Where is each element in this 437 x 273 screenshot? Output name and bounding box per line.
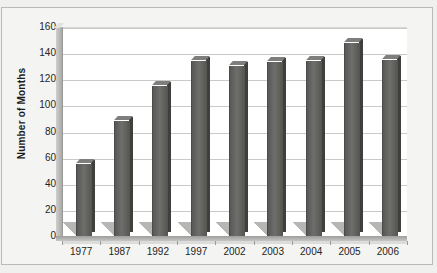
bar-front-face [191,61,207,236]
x-axis-tick-label: 2004 [291,246,331,257]
bar[interactable] [306,27,321,236]
x-axis-tick-label: 2005 [330,246,370,257]
x-axis-tick-mark [292,241,293,245]
y-axis-tick-label: 100 [20,99,56,110]
bar-front-face [344,43,360,236]
y-axis-tick-label: 20 [20,204,56,215]
x-axis-tick-label: 1987 [100,246,140,257]
bar-floor-shadow [293,222,306,236]
x-axis-tick-label: 1992 [138,246,178,257]
x-axis-tick-mark [177,241,178,245]
bar-front-face [152,86,168,236]
bar-front-face [76,164,92,236]
x-axis-tick-mark [100,241,101,245]
bar[interactable] [114,27,129,236]
bar-chart-figure: Number of Months 020406080100120140160 1… [0,0,437,273]
x-axis-tick-mark [215,241,216,245]
bar-floor-shadow [216,222,229,236]
bar-floor-shadow [178,222,191,236]
y-axis-tick-label: 60 [20,152,56,163]
bar[interactable] [191,27,206,236]
bar[interactable] [76,27,91,236]
x-axis-tick-mark [254,241,255,245]
bar-front-face [267,62,283,236]
x-axis-tick-mark [330,241,331,245]
bar-floor-shadow [254,222,267,236]
y-axis-tick-label: 40 [20,178,56,189]
bar-top-face [344,38,363,42]
x-axis-tick-mark [62,241,63,245]
y-axis-tick-label: 80 [20,126,56,137]
x-axis-tick-label: 2003 [253,246,293,257]
bar[interactable] [267,27,282,236]
y-axis-tick-label: 140 [20,47,56,58]
bar[interactable] [229,27,244,236]
bar-floor-shadow [331,222,344,236]
x-axis-tick-mark [407,241,408,245]
bar[interactable] [152,27,167,236]
bar[interactable] [382,27,397,236]
bar-front-face [306,61,322,236]
bar-floor-shadow [63,222,76,236]
y-axis-tick-label: 0 [20,230,56,241]
y-axis-tick-labels: 020406080100120140160 [14,27,56,236]
bar-front-face [114,121,130,236]
bar-floor-shadow [369,222,382,236]
x-axis-tick-labels: 197719871992199720022003200420052006 [62,246,407,262]
bar-top-face [191,56,210,60]
x-axis-tick-label: 2006 [368,246,408,257]
bar-floor-shadow [139,222,152,236]
x-axis-tick-mark [369,241,370,245]
bar-top-face [306,56,325,60]
bar-front-face [382,60,398,236]
bar-floor-shadow [101,222,114,236]
y-axis-tick-label: 160 [20,21,56,32]
x-axis-tick-label: 2002 [215,246,255,257]
bar[interactable] [344,27,359,236]
x-axis-tick-label: 1997 [176,246,216,257]
x-axis-tick-label: 1977 [61,246,101,257]
y-axis-tick-label: 120 [20,73,56,84]
x-axis-tick-mark [139,241,140,245]
x-axis-floor-front [62,241,407,244]
bars-layer [62,27,407,236]
bar-front-face [229,66,245,236]
